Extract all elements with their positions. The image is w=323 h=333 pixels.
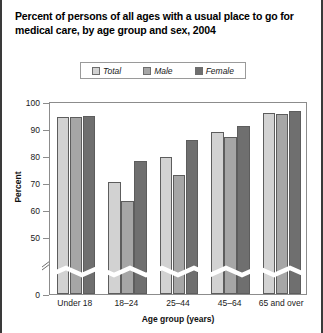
bar-total: [263, 113, 276, 294]
legend-label-total: Total: [103, 66, 121, 76]
legend-label-male: Male: [154, 66, 172, 76]
plot-area: [49, 102, 307, 295]
legend-swatch-female: [195, 67, 203, 75]
legend-swatch-total: [92, 67, 100, 75]
legend-label-female: Female: [206, 66, 234, 76]
bar-male: [224, 137, 237, 294]
legend-swatch-male: [143, 67, 151, 75]
bar-group: [160, 103, 199, 294]
x-tick-label: 65 and over: [241, 298, 321, 308]
legend-item-total: Total: [92, 66, 121, 76]
bar-female: [237, 126, 250, 294]
bar-total: [160, 157, 173, 294]
bar-male: [173, 175, 186, 294]
y-tick-label-50: 50: [14, 233, 40, 243]
bar-group: [263, 103, 302, 294]
bar-female: [289, 111, 302, 294]
legend-item-female: Female: [195, 66, 234, 76]
chart-page: Percent of persons of all ages with a us…: [0, 0, 323, 333]
y-tick-label-90: 90: [14, 125, 40, 135]
bar-female: [134, 161, 147, 294]
y-axis-title: Percent: [13, 164, 23, 210]
x-axis-title: Age group (years): [49, 314, 307, 324]
y-tick-label-100: 100: [14, 98, 40, 108]
y-tick-0: [43, 295, 49, 296]
bar-male: [121, 201, 134, 294]
bar-female: [83, 116, 96, 294]
bar-group: [108, 103, 147, 294]
bar-total: [108, 182, 121, 294]
bar-male: [70, 117, 83, 294]
bar-male: [276, 114, 289, 294]
y-tick-label-80: 80: [14, 152, 40, 162]
legend-item-male: Male: [143, 66, 172, 76]
bar-total: [57, 117, 70, 294]
chart-legend: Total Male Female: [80, 62, 246, 79]
bar-total: [211, 132, 224, 294]
chart-title: Percent of persons of all ages with a us…: [15, 10, 310, 37]
bar-female: [186, 140, 199, 294]
bar-group: [57, 103, 96, 294]
bar-group: [211, 103, 250, 294]
